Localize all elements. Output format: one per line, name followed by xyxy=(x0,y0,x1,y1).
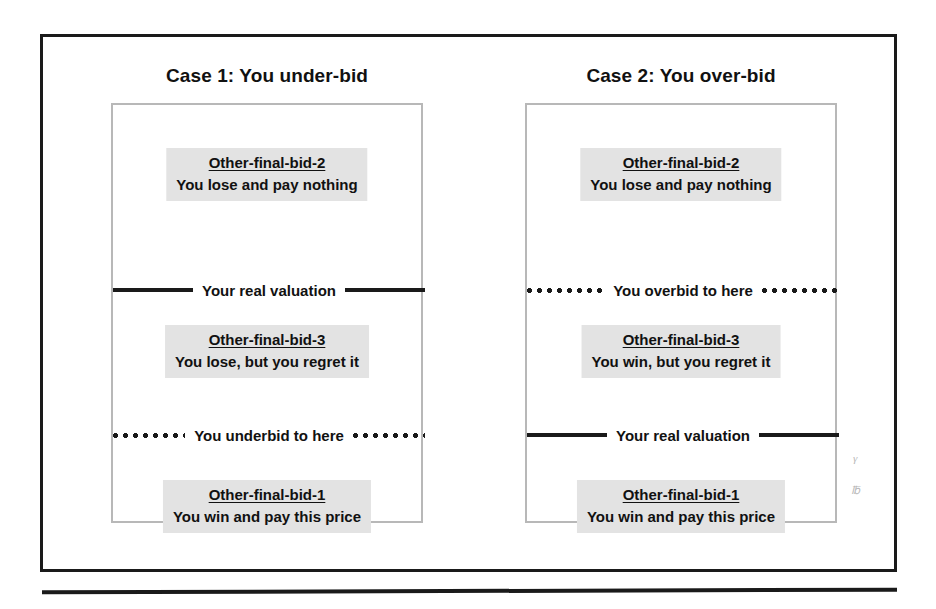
case-2-outcome-bottom-text: You win and pay this price xyxy=(587,506,775,528)
case-1-marker-upper-line-right xyxy=(345,288,425,292)
case-2-outcome-top: Other-final-bid-2 You lose and pay nothi… xyxy=(580,148,781,201)
scan-artifact-lower: ℔ xyxy=(851,484,860,497)
case-1-marker-upper-line-left xyxy=(113,288,193,292)
case-1-box: Other-final-bid-2 You lose and pay nothi… xyxy=(111,103,423,523)
case-2-box: Other-final-bid-2 You lose and pay nothi… xyxy=(525,103,837,523)
case-2-outcome-mid-label: Other-final-bid-3 xyxy=(592,329,771,351)
case-1-marker-upper-label: Your real valuation xyxy=(193,282,345,299)
case-1-outcome-mid: Other-final-bid-3 You lose, but you regr… xyxy=(165,325,369,378)
case-2-outcome-bottom: Other-final-bid-1 You win and pay this p… xyxy=(577,480,785,533)
case-1-marker-lower-line-right xyxy=(353,433,425,438)
case-1-outcome-bottom-text: You win and pay this price xyxy=(173,506,361,528)
case-1-outcome-bottom-label: Other-final-bid-1 xyxy=(173,484,361,506)
case-1-marker-lower: You underbid to here xyxy=(113,425,425,445)
case-1-outcome-top: Other-final-bid-2 You lose and pay nothi… xyxy=(166,148,367,201)
case-1-marker-lower-line-left xyxy=(113,433,185,438)
case-1-title: Case 1: You under-bid xyxy=(111,65,423,87)
case-2-marker-upper-label: You overbid to here xyxy=(604,282,762,299)
scan-artifact-upper: γ xyxy=(853,452,857,464)
case-2-title: Case 2: You over-bid xyxy=(525,65,837,87)
case-1-marker-upper: Your real valuation xyxy=(113,280,425,300)
case-2-marker-lower-line-right xyxy=(759,433,839,437)
case-1-marker-lower-label: You underbid to here xyxy=(185,427,353,444)
case-2-marker-upper-line-left xyxy=(527,288,604,293)
case-1-outcome-bottom: Other-final-bid-1 You win and pay this p… xyxy=(163,480,371,533)
case-2-outcome-top-text: You lose and pay nothing xyxy=(590,174,771,196)
case-1-outcome-mid-text: You lose, but you regret it xyxy=(175,351,359,373)
bottom-separator-rule xyxy=(42,588,897,595)
diagram-outer-frame: Case 1: You under-bid Other-final-bid-2 … xyxy=(40,34,897,572)
case-2-outcome-top-label: Other-final-bid-2 xyxy=(590,152,771,174)
case-1-outcome-mid-label: Other-final-bid-3 xyxy=(175,329,359,351)
case-2-marker-upper: You overbid to here xyxy=(527,280,839,300)
case-2-outcome-mid-text: You win, but you regret it xyxy=(592,351,771,373)
case-2-outcome-mid: Other-final-bid-3 You win, but you regre… xyxy=(582,325,781,378)
case-2-outcome-bottom-label: Other-final-bid-1 xyxy=(587,484,775,506)
case-1-outcome-top-text: You lose and pay nothing xyxy=(176,174,357,196)
case-2-marker-upper-line-right xyxy=(762,288,839,293)
case-1-outcome-top-label: Other-final-bid-2 xyxy=(176,152,357,174)
case-2-marker-lower-label: Your real valuation xyxy=(607,427,759,444)
case-2-marker-lower-line-left xyxy=(527,433,607,437)
case-2-marker-lower: Your real valuation xyxy=(527,425,839,445)
